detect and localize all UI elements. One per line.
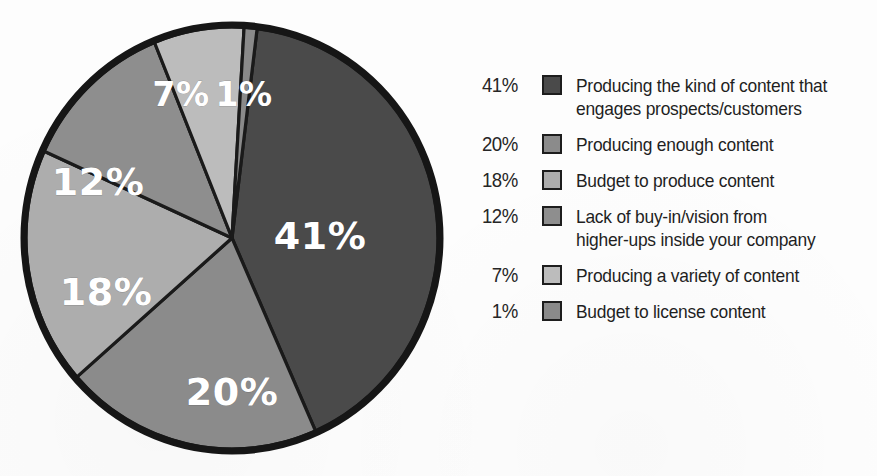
legend-item-swatch xyxy=(542,301,562,321)
legend-item-swatch xyxy=(542,134,562,154)
legend-item: 41%Producing the kind of content thateng… xyxy=(462,74,862,120)
legend-item-percent: 1% xyxy=(466,300,518,322)
legend-item-label-line1: Producing the kind of content that xyxy=(576,75,827,96)
legend-item-label: Producing a variety of content xyxy=(576,264,799,287)
legend-item: 1%Budget to license content xyxy=(462,300,862,323)
legend-item-label: Budget to produce content xyxy=(576,169,774,192)
legend-item-percent: 12% xyxy=(466,205,518,227)
legend-item-percent: 20% xyxy=(466,133,518,155)
legend-item-label-line1: Lack of buy-in/vision from xyxy=(576,206,767,227)
pie-slice-label: 20% xyxy=(186,370,278,414)
legend-item-label-line1: Producing enough content xyxy=(576,134,773,155)
legend-item: 18%Budget to produce content xyxy=(462,169,862,192)
legend-item: 20%Producing enough content xyxy=(462,133,862,156)
legend-item-percent: 41% xyxy=(466,74,518,96)
legend-item-label-line1: Budget to produce content xyxy=(576,170,774,191)
legend-item-swatch xyxy=(542,265,562,285)
legend-item-label: Lack of buy-in/vision fromhigher-ups ins… xyxy=(576,205,815,251)
legend-item-swatch xyxy=(542,170,562,190)
page-background: 41%20%18%12%7%1% 41%Producing the kind o… xyxy=(0,0,877,476)
legend-item: 7%Producing a variety of content xyxy=(462,264,862,287)
pie-slice-label: 7% xyxy=(152,75,209,114)
legend-item-swatch xyxy=(542,75,562,95)
legend-item-label: Producing enough content xyxy=(576,133,773,156)
pie-slice-label: 18% xyxy=(60,270,152,314)
legend-item-label-line1: Budget to license content xyxy=(576,301,765,322)
pie-slice-label: 12% xyxy=(52,160,144,204)
legend-item-percent: 7% xyxy=(466,264,518,286)
pie-slice-label: 41% xyxy=(274,214,366,258)
legend-item-swatch xyxy=(542,206,562,226)
legend-item-label-line2: higher-ups inside your company xyxy=(576,228,815,251)
legend-item-label: Producing the kind of content thatengage… xyxy=(576,74,827,120)
legend: 41%Producing the kind of content thateng… xyxy=(462,74,862,336)
legend-item-label: Budget to license content xyxy=(576,300,765,323)
legend-item-percent: 18% xyxy=(466,169,518,191)
pie-chart: 41%20%18%12%7%1% xyxy=(18,16,446,460)
legend-item: 12%Lack of buy-in/vision fromhigher-ups … xyxy=(462,205,862,251)
pie-slice-label: 1% xyxy=(215,75,272,114)
pie-chart-svg: 41%20%18%12%7%1% xyxy=(18,16,446,460)
legend-item-label-line1: Producing a variety of content xyxy=(576,265,799,286)
legend-item-label-line2: engages prospects/customers xyxy=(576,97,827,120)
